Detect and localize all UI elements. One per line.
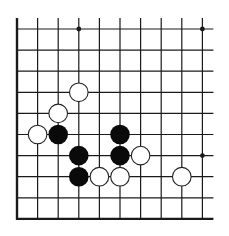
white-stone — [70, 83, 89, 102]
white-stone — [131, 146, 150, 165]
black-stone — [69, 146, 89, 166]
star-point-icon — [200, 27, 205, 32]
black-stone — [110, 125, 130, 145]
go-board — [0, 0, 229, 236]
black-stone — [110, 146, 130, 166]
white-stone — [111, 167, 130, 186]
black-stone — [69, 167, 89, 187]
white-stone — [173, 167, 192, 186]
white-stone — [49, 104, 68, 123]
board-grid — [16, 18, 213, 220]
star-point-icon — [200, 153, 205, 158]
black-stone — [48, 125, 68, 145]
white-stone — [28, 125, 47, 144]
white-stone — [90, 167, 109, 186]
star-point-icon — [76, 27, 81, 32]
